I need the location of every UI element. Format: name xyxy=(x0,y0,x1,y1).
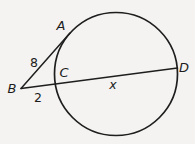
paper-background xyxy=(0,0,195,144)
point-label-c: C xyxy=(59,65,69,80)
chord-variable-label: x xyxy=(108,77,117,92)
point-label-b: B xyxy=(8,81,17,96)
tangent-length-label: 8 xyxy=(30,55,38,70)
geometry-figure: A B C D 8 2 x xyxy=(0,0,195,144)
figure-canvas: A B C D 8 2 x xyxy=(0,0,195,144)
external-segment-label: 2 xyxy=(34,90,42,105)
point-label-a: A xyxy=(56,18,66,33)
point-label-d: D xyxy=(179,60,189,75)
